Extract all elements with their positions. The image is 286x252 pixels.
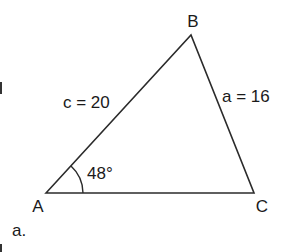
angle-a-arc (71, 166, 83, 193)
edge-mark-top (0, 82, 2, 94)
vertex-label-c: C (256, 197, 268, 216)
vertex-label-a: A (32, 197, 44, 216)
triangle-abc (46, 35, 254, 193)
vertex-label-b: B (187, 12, 198, 31)
edge-mark-bottom (0, 244, 2, 252)
angle-a-label: 48° (87, 164, 113, 183)
triangle-figure: B A C c = 20 a = 16 48° a. (0, 0, 286, 252)
side-label-a: a = 16 (222, 87, 270, 106)
figure-label: a. (12, 221, 26, 240)
side-label-c: c = 20 (63, 93, 110, 112)
triangle-diagram: B A C c = 20 a = 16 48° a. (0, 0, 286, 252)
